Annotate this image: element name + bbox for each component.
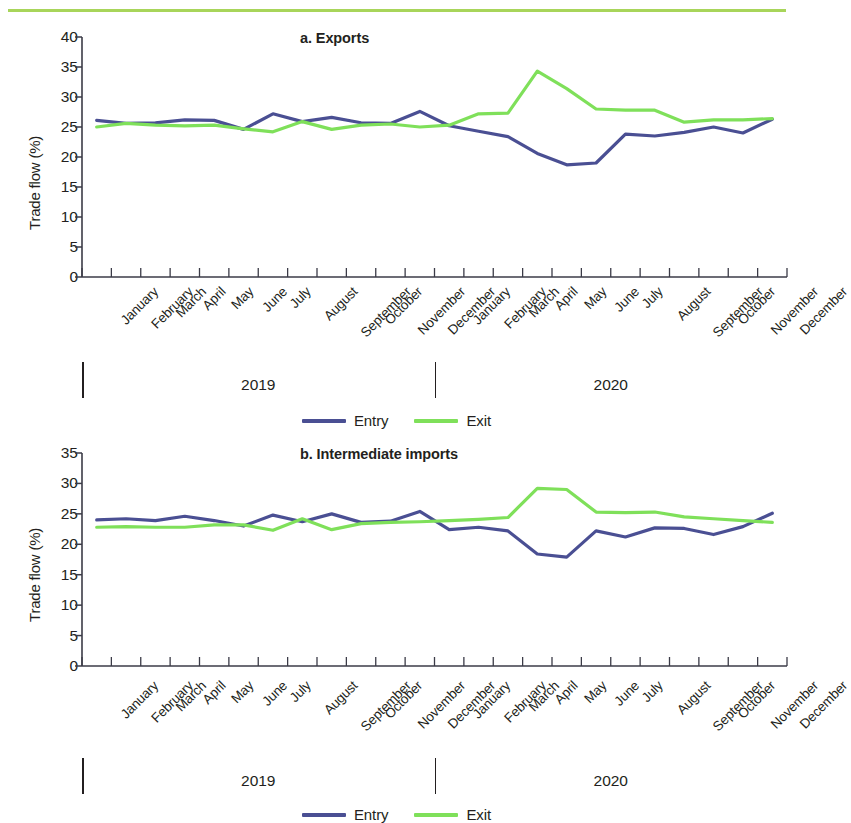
year-divider-tick — [435, 362, 437, 398]
year-divider-tick — [435, 758, 437, 794]
legend-item-exit[interactable]: Exit — [414, 412, 491, 429]
legend-intermediate-imports: EntryExit — [0, 806, 793, 823]
x-axis-month-label: June — [611, 678, 642, 709]
plot-svg-intermediate-imports — [82, 453, 787, 666]
legend-swatch-exit — [414, 419, 458, 423]
plot-area-intermediate-imports — [82, 453, 787, 666]
series-line-exit — [97, 488, 773, 530]
legend-swatch-entry — [302, 419, 346, 423]
x-axis-month-label: July — [639, 284, 666, 311]
series-line-entry — [97, 111, 773, 164]
plot-svg-exports — [82, 37, 787, 277]
year-divider-tick — [82, 758, 84, 794]
legend-label: Exit — [466, 806, 491, 823]
x-axis-month-label: August — [321, 284, 360, 323]
x-axis-month-label: May — [581, 284, 609, 312]
x-axis-month-label: June — [259, 678, 290, 709]
plot-area-exports — [82, 37, 787, 277]
legend-swatch-entry — [302, 813, 346, 817]
chart-panel-exports: a. Exports Trade flow (%) 05101520253035… — [0, 22, 793, 432]
year-label: 2020 — [594, 772, 628, 790]
x-axis-year-band-exports: 20192020 — [82, 362, 787, 412]
x-axis-month-label: May — [228, 284, 256, 312]
series-line-entry — [97, 511, 773, 557]
legend-label: Exit — [466, 412, 491, 429]
x-axis-month-label: July — [287, 284, 314, 311]
legend-exports: EntryExit — [0, 412, 793, 429]
x-axis-month-label: August — [674, 284, 713, 323]
x-axis-month-label: May — [581, 678, 609, 706]
year-label: 2019 — [241, 772, 275, 790]
y-axis-tick-labels-exports: 0510152025303540 — [40, 37, 78, 277]
year-label: 2019 — [241, 376, 275, 394]
series-line-exit — [97, 71, 773, 132]
x-axis-month-labels-intermediate-imports: JanuaryFebruaryMarchAprilMayJuneJulyAugu… — [82, 678, 787, 758]
year-label: 2020 — [594, 376, 628, 394]
x-axis-month-label: July — [639, 678, 666, 705]
legend-item-exit[interactable]: Exit — [414, 806, 491, 823]
legend-label: Entry — [354, 412, 389, 429]
chart-panel-intermediate-imports: b. Intermediate imports Trade flow (%) 0… — [0, 440, 793, 812]
legend-item-entry[interactable]: Entry — [302, 806, 389, 823]
x-axis-year-band-intermediate-imports: 20192020 — [82, 758, 787, 808]
x-axis-month-label: June — [611, 284, 642, 315]
top-divider-rule — [8, 9, 786, 12]
x-axis-month-label: June — [259, 284, 290, 315]
legend-label: Entry — [354, 806, 389, 823]
x-axis-month-label: August — [321, 678, 360, 717]
year-divider-tick — [82, 362, 84, 398]
legend-item-entry[interactable]: Entry — [302, 412, 389, 429]
x-axis-month-label: May — [228, 678, 256, 706]
x-axis-month-label: August — [674, 678, 713, 717]
legend-swatch-exit — [414, 813, 458, 817]
x-axis-month-label: July — [287, 678, 314, 705]
y-axis-tick-labels-intermediate-imports: 05101520253035 — [40, 453, 78, 666]
x-axis-month-labels-exports: JanuaryFebruaryMarchAprilMayJuneJulyAugu… — [82, 284, 787, 364]
